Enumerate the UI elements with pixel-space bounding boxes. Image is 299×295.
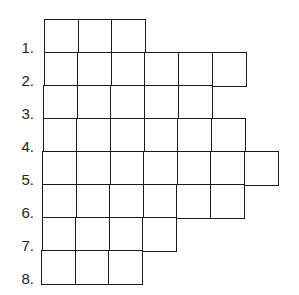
grid-cell[interactable] <box>41 250 76 285</box>
row-number-label: 8. <box>6 271 34 287</box>
grid-cell[interactable] <box>42 217 77 252</box>
grid-cell[interactable] <box>144 85 179 120</box>
grid-cell[interactable] <box>144 118 179 153</box>
grid-cell[interactable] <box>111 19 146 54</box>
grid-cell[interactable] <box>109 217 144 252</box>
grid-cell[interactable] <box>211 118 246 153</box>
grid-cell[interactable] <box>76 151 111 186</box>
row-number-label: 2. <box>6 73 34 89</box>
row-number-label: 3. <box>6 106 34 122</box>
grid-cell[interactable] <box>77 85 112 120</box>
grid-cell[interactable] <box>42 151 77 186</box>
row-number-label: 1. <box>6 40 34 56</box>
grid-cell[interactable] <box>76 118 111 153</box>
grid-cell[interactable] <box>177 151 212 186</box>
row-number-label: 5. <box>6 172 34 188</box>
row-number-label: 6. <box>6 205 34 221</box>
row-number-label: 7. <box>6 238 34 254</box>
grid-cell[interactable] <box>110 85 145 120</box>
grid-cell[interactable] <box>143 151 178 186</box>
grid-cell[interactable] <box>143 184 178 219</box>
grid-cell[interactable] <box>210 184 245 219</box>
row-number-label: 4. <box>6 139 34 155</box>
grid-cell[interactable] <box>109 184 144 219</box>
grid-cell[interactable] <box>75 250 110 285</box>
grid-cell[interactable] <box>144 52 179 87</box>
grid-cell[interactable] <box>108 250 143 285</box>
grid-cell[interactable] <box>176 184 211 219</box>
grid-cell[interactable] <box>77 52 112 87</box>
grid-cell[interactable] <box>78 19 113 54</box>
grid-cell[interactable] <box>178 85 213 120</box>
grid-cell[interactable] <box>177 118 212 153</box>
grid-cell[interactable] <box>110 118 145 153</box>
grid-cell[interactable] <box>43 85 78 120</box>
grid-cell[interactable] <box>75 217 110 252</box>
grid-cell[interactable] <box>44 19 79 54</box>
grid-cell[interactable] <box>244 151 279 186</box>
grid-cell[interactable] <box>43 118 78 153</box>
grid-cell[interactable] <box>142 217 177 252</box>
grid-cell[interactable] <box>110 151 145 186</box>
grid-cell[interactable] <box>111 52 146 87</box>
grid-cell[interactable] <box>212 52 247 87</box>
grid-cell[interactable] <box>44 52 79 87</box>
grid-cell[interactable] <box>42 184 77 219</box>
grid-cell[interactable] <box>178 52 213 87</box>
grid-cell[interactable] <box>210 151 245 186</box>
grid-cell[interactable] <box>76 184 111 219</box>
